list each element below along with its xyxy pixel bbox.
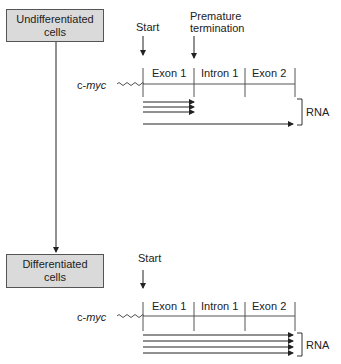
segment-exon2-bottom: Exon 2 [252, 300, 286, 312]
rna-label-bottom: RNA [306, 339, 329, 351]
rna-label-top: RNA [306, 106, 329, 118]
gene-name-top: c-myc [77, 79, 106, 91]
start-label-top: Start [136, 21, 159, 33]
upstream-wavy-top [117, 83, 144, 86]
gene-name-bottom: c-myc [77, 311, 106, 323]
upstream-wavy-bottom [117, 315, 144, 318]
rna-bracket-bottom [297, 333, 302, 356]
segment-intron1-top: Intron 1 [201, 67, 238, 79]
rna-bracket-top [297, 99, 302, 125]
segment-exon1-bottom: Exon 1 [152, 300, 186, 312]
start-label-bottom: Start [138, 252, 161, 264]
segment-intron1-bottom: Intron 1 [201, 300, 238, 312]
termination-label: Prematuretermination [190, 10, 244, 34]
segment-exon1-top: Exon 1 [152, 67, 186, 79]
segment-exon2-top: Exon 2 [252, 67, 286, 79]
